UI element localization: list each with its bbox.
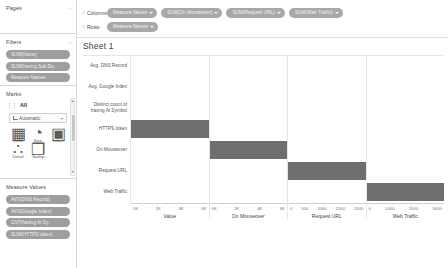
axis-tick: 0K xyxy=(212,206,217,211)
pane-on-mouseover xyxy=(210,55,289,203)
marks-all-row[interactable]: ⋮⋮ All xyxy=(6,102,70,108)
axis-tick: 4K xyxy=(178,206,183,211)
drag-grip-icon: ∷ xyxy=(82,24,85,29)
marks-tooltip-button[interactable]: ❐ Tooltip xyxy=(28,145,48,159)
marks-detail-button[interactable]: ∴ Detail xyxy=(8,145,28,159)
axis-tick: 6K xyxy=(201,206,206,211)
mark-type-dropdown[interactable]: Automatic ▾ xyxy=(9,113,67,123)
filters-card-title: Filters xyxy=(6,39,70,46)
axis-tick: 4K xyxy=(257,206,262,211)
bar-chart-icon xyxy=(13,116,17,120)
axis-tick: 2000 xyxy=(409,206,419,211)
axis-tick: 0 xyxy=(369,206,371,211)
row-header-label: Avg. Google Index xyxy=(83,76,130,97)
axis-tick: 2K xyxy=(234,206,239,211)
rows-shelf-label: Rows xyxy=(87,24,100,30)
axis-tick: 1000 xyxy=(385,206,395,211)
chart-panes xyxy=(131,55,444,203)
marks-button-group-row2: ∴ Detail ❐ Tooltip xyxy=(6,145,70,159)
row-header-label: Distinct count of having At Symbol xyxy=(83,97,130,118)
bar-on-mouseover[interactable] xyxy=(210,141,288,159)
columns-pill-web-traffic[interactable]: SUM(Web Traffic) xyxy=(289,8,343,18)
scroll-down-icon[interactable]: ▼ xyxy=(71,170,74,175)
measure-value-pill[interactable]: AVG(Google Index) xyxy=(6,207,70,216)
axis-web-traffic: 0 1000 2000 3000 Web Traffic xyxy=(367,203,445,219)
color-icon: ▦ xyxy=(13,129,23,137)
rows-pill-measure-names[interactable]: Measure Names xyxy=(107,22,158,32)
measure-values-card: Measure Values AVG(DNS Record) AVG(Googl… xyxy=(0,179,76,261)
marks-scrollbar[interactable]: ▲ ▼ xyxy=(70,98,75,176)
left-sidebar: Pages › Filters › SUM(Name) SUM(having S… xyxy=(0,0,76,268)
columns-pill-on-mouseover[interactable]: SUM(On Mouseover) xyxy=(161,8,222,18)
chevron-down-icon: ▾ xyxy=(61,116,63,121)
axis-tick: 0K xyxy=(133,206,138,211)
row-header-label: HTTPS token xyxy=(83,118,130,139)
chart-area: Avg. DNS Record Avg. Google Index Distin… xyxy=(83,55,444,240)
axes-row: 0K 2K 4K 6K Value 0K 2K 4K 6 xyxy=(131,203,444,219)
axis-tick: 6K xyxy=(280,206,285,211)
axis-ticks: 0 500 1000 1500 2000 xyxy=(288,204,366,211)
axis-tick: 500 xyxy=(301,206,308,211)
pages-collapse-icon[interactable]: › xyxy=(70,6,72,11)
columns-shelf-pills: Measure Values SUM(On Mouseover) SUM(Req… xyxy=(107,8,343,18)
measure-value-pill[interactable]: AVG(DNS Record) xyxy=(6,195,70,204)
shelves-area: ∷ Columns Measure Values SUM(On Mouseove… xyxy=(77,0,448,38)
filters-card: Filters › SUM(Name) SUM(having Sub Do.. … xyxy=(0,34,76,86)
marks-card: Marks ▲ ▼ ⋮⋮ All Automatic ▾ ▦ xyxy=(0,86,76,179)
columns-shelf-label: Columns xyxy=(87,10,107,16)
tooltip-icon: ❐ xyxy=(33,145,43,153)
row-header-column: Avg. DNS Record Avg. Google Index Distin… xyxy=(83,55,131,203)
columns-pill-measure-values[interactable]: Measure Values xyxy=(107,8,157,18)
columns-pill-request-url[interactable]: SUM(Request URL) xyxy=(226,8,284,18)
measure-value-pill[interactable]: SUM(HTTPS token) xyxy=(6,230,70,239)
axis-title: Request URL xyxy=(288,213,366,219)
chart-grid: Avg. DNS Record Avg. Google Index Distin… xyxy=(83,55,444,203)
axis-ticks: 0K 2K 4K 6K xyxy=(210,204,288,211)
axis-title: On Mouseover xyxy=(210,213,288,219)
marks-card-title: Marks xyxy=(6,91,70,98)
pages-card: Pages › xyxy=(0,0,76,34)
pages-card-title: Pages xyxy=(6,5,70,12)
axis-tick: 2K xyxy=(156,206,161,211)
bar-web-traffic[interactable] xyxy=(367,183,445,201)
axis-title: Web Traffic xyxy=(367,213,445,219)
pane-request-url xyxy=(288,55,367,203)
bar-https-token[interactable] xyxy=(131,120,209,138)
mark-type-value: Automatic xyxy=(19,116,40,121)
axis-title: Value xyxy=(131,213,209,219)
marks-detail-label: Detail xyxy=(12,154,23,159)
rows-shelf[interactable]: ∷ Rows Measure Names xyxy=(81,20,444,33)
axis-on-mouseover: 0K 2K 4K 6K On Mouseover xyxy=(210,203,289,219)
chart-axes: 0K 2K 4K 6K Value 0K 2K 4K 6 xyxy=(83,203,444,219)
filters-collapse-icon[interactable]: › xyxy=(70,40,72,45)
axis-tick: 1000 xyxy=(317,206,327,211)
columns-shelf[interactable]: ∷ Columns Measure Values SUM(On Mouseove… xyxy=(81,6,444,19)
bar-request-url[interactable] xyxy=(288,162,366,180)
axis-value: 0K 2K 4K 6K Value xyxy=(131,203,210,219)
axis-tick: 3000 xyxy=(432,206,442,211)
row-header-label: Web Traffic xyxy=(83,182,130,203)
axis-tick: 1500 xyxy=(336,206,346,211)
axes-spacer xyxy=(83,203,131,219)
row-header-label: Avg. DNS Record xyxy=(83,55,130,76)
filter-pill[interactable]: SUM(having Sub Do.. xyxy=(6,62,70,71)
size-icon: ◔ xyxy=(33,129,43,137)
filter-pill[interactable]: SUM(Name) xyxy=(6,50,70,59)
axis-ticks: 0K 2K 4K 6K xyxy=(131,204,209,211)
scrollbar-thumb[interactable] xyxy=(72,115,75,141)
marks-label-button[interactable]: ▣ Label xyxy=(48,129,68,143)
axis-request-url: 0 500 1000 1500 2000 Request URL xyxy=(288,203,367,219)
rows-shelf-label-wrap: ∷ Rows xyxy=(81,24,107,30)
row-header-label: On Mouseover xyxy=(83,140,130,161)
pane-value xyxy=(131,55,210,203)
axis-tick: 2000 xyxy=(354,206,364,211)
filter-pill[interactable]: Measure Names xyxy=(6,73,70,82)
columns-shelf-label-wrap: ∷ Columns xyxy=(81,10,107,16)
scroll-up-icon[interactable]: ▲ xyxy=(71,99,74,104)
sheet-title: Sheet 1 xyxy=(77,38,448,55)
detail-icon: ∴ xyxy=(13,145,23,153)
workspace: ∷ Columns Measure Values SUM(On Mouseove… xyxy=(77,0,448,268)
measure-value-pill[interactable]: CNT(having At Sy.. xyxy=(6,218,70,227)
tableau-worksheet: Pages › Filters › SUM(Name) SUM(having S… xyxy=(0,0,448,268)
marks-label-label: Label xyxy=(53,138,64,143)
